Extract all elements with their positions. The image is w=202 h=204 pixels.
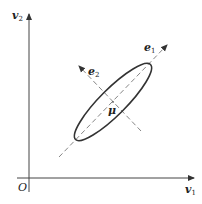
e2-label: e2 bbox=[88, 66, 99, 79]
center-point bbox=[112, 101, 114, 103]
y-axis-label: v2 bbox=[12, 10, 23, 23]
origin-label: O bbox=[18, 182, 27, 193]
x-axis-label: v1 bbox=[185, 184, 196, 197]
e1-label: e1 bbox=[144, 42, 155, 55]
diagram-canvas: v2 O v1 e1 e2 μ bbox=[0, 0, 202, 204]
mu-label: μ bbox=[108, 105, 116, 116]
diagram-svg bbox=[0, 0, 202, 204]
